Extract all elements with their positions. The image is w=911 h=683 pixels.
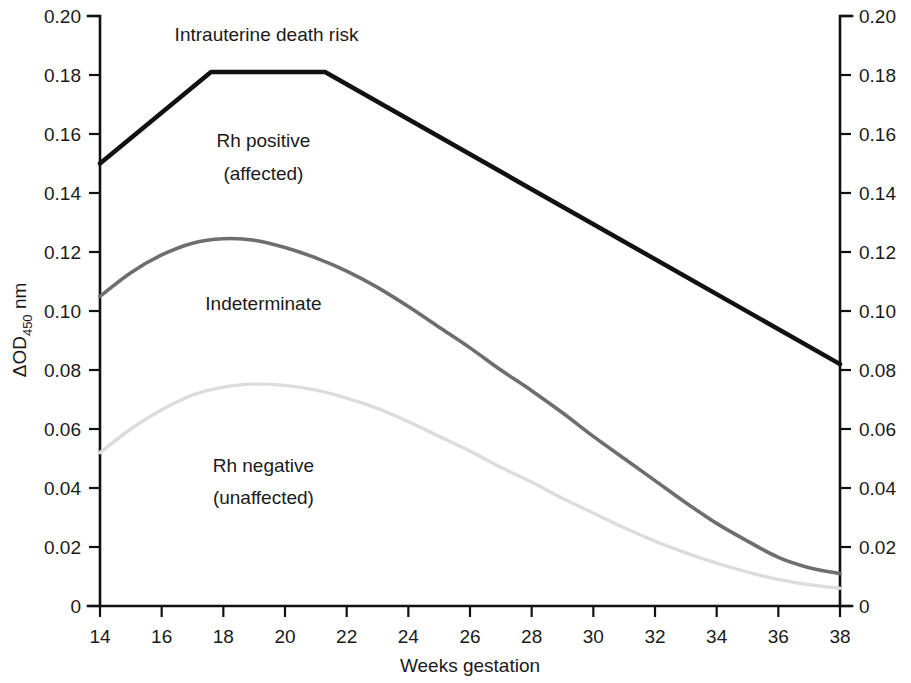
right-tick-label: 0 xyxy=(859,596,870,617)
right-axis-tick-labels: 00.020.040.060.080.100.120.140.160.180.2… xyxy=(859,6,896,617)
bilirubin-liley-curve-chart: 00.020.040.060.080.100.120.140.160.180.2… xyxy=(0,0,911,683)
chart-annotations: Intrauterine death riskRh positive(affec… xyxy=(175,24,359,508)
svg-text:ΔOD450 nm: ΔOD450 nm xyxy=(9,283,35,378)
x-tick-label: 24 xyxy=(398,626,420,647)
x-tick-label: 18 xyxy=(213,626,234,647)
right-tick-label: 0.06 xyxy=(859,419,896,440)
x-tick-label: 32 xyxy=(644,626,665,647)
series-line xyxy=(100,239,840,574)
annotation-intrauterine-death-risk: Intrauterine death risk xyxy=(175,24,359,45)
x-tick-label: 22 xyxy=(336,626,357,647)
x-tick-label: 14 xyxy=(89,626,111,647)
left-tick-label: 0.18 xyxy=(44,65,81,86)
y-axis-title-unit: nm xyxy=(9,283,30,315)
right-tick-label: 0.12 xyxy=(859,242,896,263)
right-tick-label: 0.18 xyxy=(859,65,896,86)
annotation-rh-positive-line2: (affected) xyxy=(223,163,303,184)
y-axis-title-main: ΔOD xyxy=(9,336,30,377)
left-axis-ticks xyxy=(89,16,100,606)
x-axis-title: Weeks gestation xyxy=(400,655,540,676)
x-tick-label: 16 xyxy=(151,626,172,647)
annotation-rh-negative-line2: (unaffected) xyxy=(213,487,314,508)
x-tick-label: 26 xyxy=(459,626,480,647)
right-axis-ticks xyxy=(840,16,851,606)
left-axis-tick-labels: 00.020.040.060.080.100.120.140.160.180.2… xyxy=(44,6,81,617)
y-axis-title: ΔOD450 nm xyxy=(9,283,35,378)
left-tick-label: 0.02 xyxy=(44,537,81,558)
annotation-rh-positive-line1: Rh positive xyxy=(216,130,310,151)
right-tick-label: 0.16 xyxy=(859,124,896,145)
left-tick-label: 0.12 xyxy=(44,242,81,263)
left-tick-label: 0.06 xyxy=(44,419,81,440)
x-tick-label: 36 xyxy=(768,626,789,647)
x-axis-tick-labels: 14161820222426283032343638 xyxy=(89,626,850,647)
axes-group xyxy=(88,16,852,606)
series-line xyxy=(100,384,840,588)
left-tick-label: 0 xyxy=(70,596,81,617)
x-tick-label: 28 xyxy=(521,626,542,647)
right-tick-label: 0.10 xyxy=(859,301,896,322)
right-tick-label: 0.14 xyxy=(859,183,896,204)
annotation-rh-negative-line1: Rh negative xyxy=(213,455,314,476)
y-axis-title-subscript: 450 xyxy=(20,314,35,336)
chart-container: 00.020.040.060.080.100.120.140.160.180.2… xyxy=(0,0,911,683)
x-tick-label: 34 xyxy=(706,626,728,647)
series-line xyxy=(100,72,840,364)
right-tick-label: 0.20 xyxy=(859,6,896,27)
annotation-indeterminate: Indeterminate xyxy=(205,293,321,314)
left-tick-label: 0.10 xyxy=(44,301,81,322)
left-tick-label: 0.08 xyxy=(44,360,81,381)
data-series-group xyxy=(100,72,840,588)
left-tick-label: 0.16 xyxy=(44,124,81,145)
x-tick-label: 20 xyxy=(274,626,295,647)
left-tick-label: 0.14 xyxy=(44,183,81,204)
left-tick-label: 0.20 xyxy=(44,6,81,27)
right-tick-label: 0.08 xyxy=(859,360,896,381)
right-tick-label: 0.02 xyxy=(859,537,896,558)
right-tick-label: 0.04 xyxy=(859,478,896,499)
x-tick-label: 30 xyxy=(583,626,604,647)
left-tick-label: 0.04 xyxy=(44,478,81,499)
x-axis-ticks xyxy=(100,606,840,617)
x-tick-label: 38 xyxy=(829,626,850,647)
